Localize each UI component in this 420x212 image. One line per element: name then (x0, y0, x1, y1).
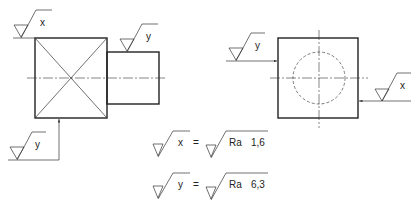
svg-text:y: y (255, 40, 260, 51)
surface-symbol-x-right: x (359, 73, 411, 101)
side-view: y x (226, 30, 411, 128)
svg-text:x: x (40, 17, 45, 28)
legend-row-y: y = Ra 6,3 (153, 173, 268, 200)
svg-text:Ra: Ra (229, 179, 242, 190)
legend: x = Ra 1,6 y = Ra 6,3 (153, 131, 268, 200)
svg-text:x: x (400, 80, 405, 91)
surface-symbol-x-top: x (13, 10, 52, 38)
surface-symbol-y-shaft: y (120, 24, 158, 52)
surface-symbol-y-left: y (226, 33, 277, 61)
svg-text:y: y (178, 179, 183, 190)
surface-symbol-y-bottom: y (8, 119, 59, 160)
front-view: x y y (8, 10, 166, 160)
legend-row-x: x = Ra 1,6 (153, 131, 268, 158)
svg-text:y: y (35, 139, 40, 150)
technical-drawing: x y y y (0, 0, 420, 212)
svg-text:6,3: 6,3 (251, 179, 265, 190)
svg-text:=: = (193, 179, 199, 190)
svg-text:Ra: Ra (229, 137, 242, 148)
svg-text:x: x (178, 137, 183, 148)
svg-text:y: y (146, 31, 151, 42)
svg-text:1,6: 1,6 (251, 137, 265, 148)
svg-text:=: = (193, 137, 199, 148)
